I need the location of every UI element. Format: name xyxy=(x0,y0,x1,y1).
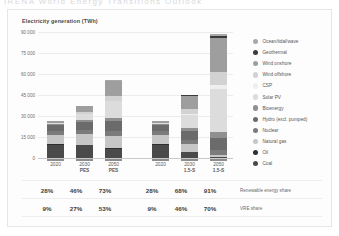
x-axis-label: 20301.5-S xyxy=(176,162,204,174)
bar-segment-natural-gas xyxy=(105,136,122,148)
legend-item-label: Natural gas xyxy=(262,139,286,144)
bar-2020 xyxy=(152,121,169,158)
gridline xyxy=(38,32,233,33)
legend-item-nuclear[interactable]: Nuclear xyxy=(253,125,339,136)
x-axis-label: 2020 xyxy=(42,162,70,168)
bar-segment-coal xyxy=(76,145,93,158)
table-row: 9%27%53%9%46%70%VRE share xyxy=(22,198,322,217)
x-axis-label: 2050PES xyxy=(100,162,128,174)
legend-item-csp[interactable]: CSP xyxy=(253,80,339,91)
legend-item-coal[interactable]: Coal xyxy=(253,158,339,169)
gridline xyxy=(38,158,233,159)
legend-item-label: Nuclear xyxy=(262,128,278,133)
x-axis-label: 20501.5-S xyxy=(205,162,233,174)
bar-segment-wind-onshore xyxy=(181,96,198,109)
table-cell: 70% xyxy=(196,204,224,211)
bar-2020 xyxy=(47,121,64,158)
x-axis-label-year: 2050 xyxy=(108,162,119,167)
legend-item-geothermal[interactable]: Geothermal xyxy=(253,47,339,58)
x-axis-tick-mark xyxy=(181,159,198,161)
legend-item-label: Wind onshore xyxy=(262,61,291,66)
x-axis-label-scenario: PES xyxy=(100,168,128,174)
table-cell: 46% xyxy=(167,204,195,211)
x-axis-labels: 20202030PES2050PES202020301.5-S20501.5-S xyxy=(38,162,233,180)
y-axis-tick-label: 45 000 xyxy=(21,93,35,98)
legend-item-wind-offshore[interactable]: Wind offshore xyxy=(253,69,339,80)
bar-segment-natural-gas xyxy=(76,134,93,145)
x-axis-label-year: 2030 xyxy=(79,162,90,167)
bar-segment-natural-gas xyxy=(47,135,64,144)
legend-swatch-icon xyxy=(253,39,258,44)
gridline xyxy=(38,74,233,75)
table-cell: 9% xyxy=(138,204,166,211)
legend-item-bioenergy[interactable]: Bioenergy xyxy=(253,103,339,114)
x-axis-tick-mark xyxy=(105,159,122,161)
legend-swatch-icon xyxy=(253,117,258,122)
x-axis-label-scenario: 1.5-S xyxy=(176,168,204,174)
table-cell: 91% xyxy=(196,186,224,193)
y-axis-tick-label: 15 000 xyxy=(21,135,35,140)
y-axis-tick-label: 30 000 xyxy=(21,114,35,119)
bar-segment-coal xyxy=(47,145,64,158)
x-axis-label-year: 2020 xyxy=(155,162,166,167)
share-table: 28%46%73%28%68%91%Renewable energy share… xyxy=(22,180,322,217)
table-cell: 53% xyxy=(91,204,119,211)
gridline xyxy=(38,53,233,54)
legend-item-label: Coal xyxy=(262,161,272,166)
legend-swatch-icon xyxy=(253,94,258,99)
y-axis-tick-label: 90 000 xyxy=(21,30,35,35)
legend-item-label: Solar PV xyxy=(262,95,281,100)
bar-2030-1.5-s xyxy=(181,95,198,158)
legend-swatch-icon xyxy=(253,139,258,144)
y-axis-tick-label: 0 xyxy=(32,156,35,161)
bar-segment-wind-onshore xyxy=(210,38,227,72)
chart-legend: Ocean/tidal/waveGeothermalWind onshoreWi… xyxy=(253,36,339,169)
legend-swatch-icon xyxy=(253,50,258,55)
legend-item-natural-gas[interactable]: Natural gas xyxy=(253,136,339,147)
x-axis-label: 2020 xyxy=(147,162,175,168)
bar-2050-pes xyxy=(105,80,122,158)
table-cell: 28% xyxy=(33,186,61,193)
table-row: 28%46%73%28%68%91%Renewable energy share xyxy=(22,180,322,198)
table-cell: 28% xyxy=(138,186,166,193)
x-axis-tick-mark xyxy=(152,159,169,161)
table-cell: 27% xyxy=(62,204,90,211)
bar-segment-coal xyxy=(181,152,198,158)
x-axis-label-year: 2030 xyxy=(184,162,195,167)
x-axis-label-year: 2050 xyxy=(213,162,224,167)
bar-segment-coal xyxy=(210,157,227,158)
legend-swatch-icon xyxy=(253,128,258,133)
legend-item-hydro-excl-pumped-[interactable]: Hydro (excl. pumped) xyxy=(253,114,339,125)
chart-title: Electricity generation (TWh) xyxy=(22,18,98,24)
table-cell: 73% xyxy=(91,186,119,193)
cut-off-header-strip: IRENA World Energy Transitions Outlook xyxy=(0,0,339,9)
bar-segment-wind-onshore xyxy=(105,81,122,96)
cut-off-header-text: IRENA World Energy Transitions Outlook xyxy=(4,0,202,6)
legend-item-oil[interactable]: Oil xyxy=(253,147,339,158)
legend-item-label: Ocean/tidal/wave xyxy=(262,39,298,44)
table-cell: 9% xyxy=(33,204,61,211)
legend-swatch-icon xyxy=(253,161,258,166)
legend-item-ocean-tidal-wave[interactable]: Ocean/tidal/wave xyxy=(253,36,339,47)
bar-segment-solar-pv xyxy=(105,101,122,118)
bar-segment-solar-pv xyxy=(210,89,227,132)
gridline xyxy=(38,116,233,117)
x-axis-tick-mark xyxy=(210,159,227,161)
legend-swatch-icon xyxy=(253,105,258,110)
gridline xyxy=(38,137,233,138)
x-axis-label-scenario: PES xyxy=(71,168,99,174)
bar-segment-natural-gas xyxy=(181,144,198,151)
bar-segment-hydro-excl-pumped- xyxy=(76,122,93,130)
table-cell: 46% xyxy=(62,186,90,193)
chart-panel: Electricity generation (TWh) 015 00030 0… xyxy=(7,9,332,227)
legend-swatch-icon xyxy=(253,150,258,155)
legend-item-label: Hydro (excl. pumped) xyxy=(262,117,307,122)
table-cell: 68% xyxy=(167,186,195,193)
x-axis-label: 2030PES xyxy=(71,162,99,174)
legend-item-solar-pv[interactable]: Solar PV xyxy=(253,91,339,102)
legend-item-label: Geothermal xyxy=(262,50,287,55)
y-axis-tick-label: 75 000 xyxy=(21,51,35,56)
legend-item-wind-onshore[interactable]: Wind onshore xyxy=(253,58,339,69)
bar-segment-coal xyxy=(105,149,122,158)
legend-item-label: Wind offshore xyxy=(262,72,291,77)
